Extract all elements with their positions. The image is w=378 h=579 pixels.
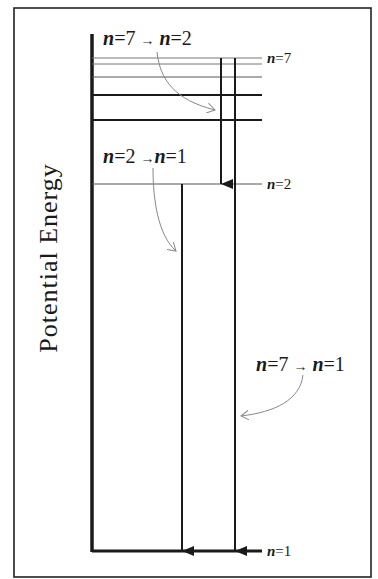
level-label-n2: n=2 xyxy=(267,176,291,192)
figure-border xyxy=(14,8,371,577)
caption-n2-to-n1: n=2 →n=1 xyxy=(103,145,187,167)
level-label-n1: n=1 xyxy=(267,543,291,559)
level-label-n7: n=7 xyxy=(267,50,292,66)
pointer-n2-to-n1 xyxy=(153,168,176,251)
caption-n7-to-n2: n=7 → n=2 xyxy=(103,27,192,49)
pointer-n7-to-n2 xyxy=(157,52,215,110)
energy-level-diagram: Potential Energy n=7 n=2 n=1 n=7 → n=2 n… xyxy=(0,0,378,579)
pointer-n7-to-n1 xyxy=(241,375,303,416)
caption-n7-to-n1: n=7 → n=1 xyxy=(256,353,345,375)
axis-label: Potential Energy xyxy=(34,163,63,353)
